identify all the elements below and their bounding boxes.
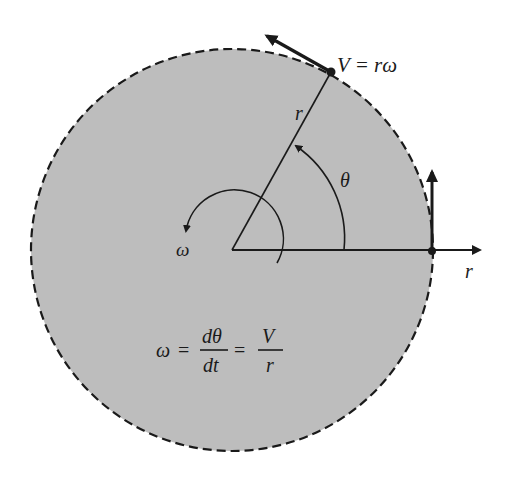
omega-label: ω xyxy=(176,239,189,260)
fraction1-denominator: dt xyxy=(203,354,219,376)
radial-axis-label: r xyxy=(465,260,473,282)
radius-label: r xyxy=(295,102,303,124)
fraction2-denominator: r xyxy=(266,354,274,376)
theta-label: θ xyxy=(340,169,350,191)
equation-equals-1: = xyxy=(178,339,189,361)
fraction1-numerator: dθ xyxy=(202,325,222,347)
equation-equals-2: = xyxy=(234,339,245,361)
moving-point-dot xyxy=(327,68,336,77)
circular-motion-diagram: V = rω r θ ω r ω = dθ dt = V r xyxy=(0,0,509,481)
velocity-label: V = rω xyxy=(337,53,397,77)
equation-lhs: ω xyxy=(156,339,170,361)
point-right-dot xyxy=(428,247,436,255)
